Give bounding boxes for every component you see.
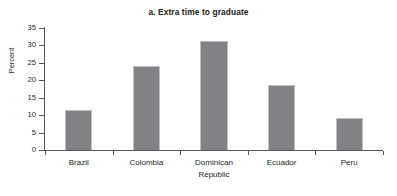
x-tick-label-line: Brazil <box>45 157 113 169</box>
chart-figure: a. Extra time to graduate Percent 051015… <box>0 0 397 196</box>
y-tick-label: 5 <box>10 129 36 137</box>
chart-title: a. Extra time to graduate <box>0 7 397 17</box>
x-tick-label: Brazil <box>45 157 113 169</box>
x-tick-label-line: Republic <box>180 169 248 181</box>
y-tick-mark <box>39 150 44 151</box>
y-tick-mark <box>39 115 44 116</box>
x-tick-mark <box>248 151 249 155</box>
y-tick-label: 20 <box>10 76 36 84</box>
x-tick-label: Colombia <box>113 157 181 169</box>
x-tick-mark <box>45 151 46 155</box>
y-tick-mark <box>39 80 44 81</box>
y-tick-mark <box>39 133 44 134</box>
y-tick-mark <box>39 98 44 99</box>
bar[interactable] <box>268 85 295 150</box>
x-tick-mark <box>315 151 316 155</box>
x-tick-label-line: Dominican <box>180 157 248 169</box>
y-tick-label: 35 <box>10 24 36 32</box>
x-tick-label-line: Colombia <box>113 157 181 169</box>
plot-area <box>45 28 383 150</box>
y-tick-label: 0 <box>10 146 36 154</box>
x-tick-label-line: Ecuador <box>248 157 316 169</box>
y-tick-mark <box>39 28 44 29</box>
bar[interactable] <box>336 118 363 150</box>
x-tick-label: Peru <box>315 157 383 169</box>
x-axis-line <box>44 150 383 151</box>
x-tick-mark <box>383 151 384 155</box>
bar[interactable] <box>65 110 92 150</box>
x-tick-label: DominicanRepublic <box>180 157 248 180</box>
x-tick-label: Ecuador <box>248 157 316 169</box>
x-tick-mark <box>113 151 114 155</box>
y-tick-mark <box>39 63 44 64</box>
y-tick-label: 10 <box>10 111 36 119</box>
y-tick-label: 30 <box>10 41 36 49</box>
x-tick-label-line: Peru <box>315 157 383 169</box>
bar[interactable] <box>133 66 160 150</box>
y-tick-label: 15 <box>10 94 36 102</box>
x-tick-mark <box>180 151 181 155</box>
y-tick-label: 25 <box>10 59 36 67</box>
y-tick-mark <box>39 45 44 46</box>
bar[interactable] <box>200 41 227 150</box>
